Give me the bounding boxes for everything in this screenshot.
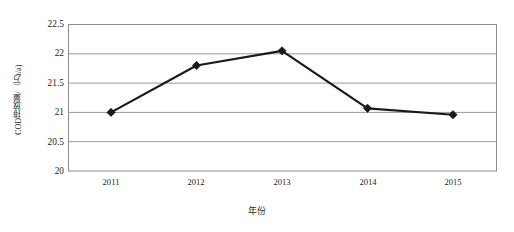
plot-area — [0, 0, 514, 232]
x-tick-label: 2013 — [273, 177, 290, 187]
x-tick-label: 2015 — [444, 177, 461, 187]
line-chart: COD排放量/（万t/a) 22.5 22 21.5 21 20.5 20 20… — [0, 0, 514, 232]
x-tick-label: 2011 — [103, 177, 120, 187]
plot-frame — [69, 25, 497, 172]
x-axis-title: 年份 — [248, 204, 266, 217]
x-tick-label: 2012 — [187, 177, 204, 187]
x-tick-label: 2014 — [359, 177, 376, 187]
